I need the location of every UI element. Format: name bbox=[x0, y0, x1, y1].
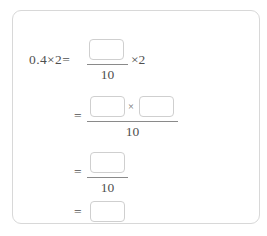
answer-box-2a[interactable] bbox=[90, 96, 125, 117]
answer-box-3[interactable] bbox=[90, 152, 125, 173]
line1-left-expression: 0.4×2= bbox=[29, 52, 70, 68]
exercise-card: 0.4×2= 10 ×2 = × 10 = 10 = bbox=[12, 10, 260, 224]
line2-multiplication-symbol: × bbox=[128, 101, 134, 112]
fraction-bar-2 bbox=[87, 121, 178, 122]
line1-denominator: 10 bbox=[87, 67, 128, 83]
fraction-bar-3 bbox=[87, 177, 128, 178]
line2-equals-sign: = bbox=[74, 108, 82, 124]
line1-trailing-expression: ×2 bbox=[131, 52, 145, 68]
math-expression-block: 0.4×2= 10 ×2 = × 10 = 10 = bbox=[13, 11, 259, 223]
line3-denominator: 10 bbox=[87, 180, 128, 196]
line3-equals-sign: = bbox=[74, 164, 82, 180]
answer-box-4[interactable] bbox=[90, 201, 125, 222]
line4-equals-sign: = bbox=[74, 204, 82, 220]
answer-box-1[interactable] bbox=[89, 39, 124, 60]
answer-box-2b[interactable] bbox=[139, 96, 174, 117]
fraction-bar-1 bbox=[87, 64, 128, 65]
line2-denominator: 10 bbox=[87, 124, 178, 140]
